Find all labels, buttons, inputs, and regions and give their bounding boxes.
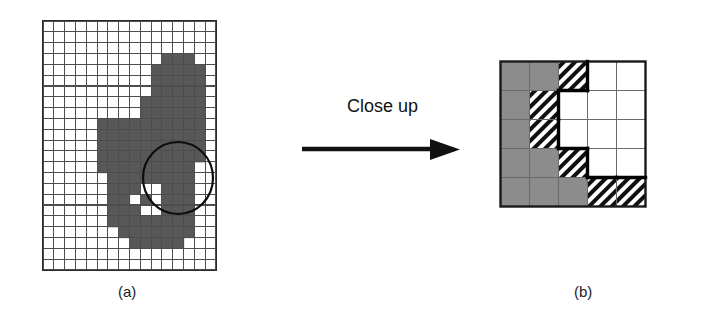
object-pixel	[173, 75, 184, 86]
object-pixel	[130, 140, 141, 151]
object-pixel	[184, 183, 195, 194]
object-pixel	[173, 162, 184, 173]
cell-object	[559, 178, 588, 207]
object-pixel	[108, 162, 119, 173]
object-pixel	[151, 129, 162, 140]
object-pixel	[173, 238, 184, 249]
object-pixel	[151, 227, 162, 238]
object-pixel	[130, 227, 141, 238]
cell-object	[530, 178, 559, 207]
object-pixel	[119, 205, 130, 216]
object-pixel	[173, 86, 184, 97]
object-pixel	[184, 227, 195, 238]
object-pixel	[151, 238, 162, 249]
object-pixel	[173, 97, 184, 108]
object-pixel	[194, 86, 205, 97]
cell-boundary	[530, 120, 559, 149]
panel-b-closeup	[497, 58, 649, 210]
object-pixel	[151, 108, 162, 119]
object-pixel	[194, 64, 205, 75]
object-pixel	[162, 151, 173, 162]
object-pixel	[162, 75, 173, 86]
object-pixel	[184, 162, 195, 173]
object-pixel	[194, 118, 205, 129]
object-pixel	[184, 129, 195, 140]
object-pixel	[140, 227, 151, 238]
object-pixel	[119, 227, 130, 238]
object-pixel	[162, 97, 173, 108]
closeup-label: Close up	[300, 96, 465, 117]
object-pixel	[184, 108, 195, 119]
object-pixel	[194, 108, 205, 119]
object-pixel	[140, 108, 151, 119]
object-pixel	[162, 108, 173, 119]
object-pixel	[108, 118, 119, 129]
object-pixel	[108, 151, 119, 162]
object-pixel	[151, 86, 162, 97]
cell-object	[501, 62, 530, 91]
object-pixel	[173, 216, 184, 227]
object-pixel	[119, 216, 130, 227]
object-pixel	[108, 129, 119, 140]
object-pixel	[119, 194, 130, 205]
object-pixel	[184, 75, 195, 86]
object-pixel	[173, 53, 184, 64]
object-pixel	[97, 140, 108, 151]
object-pixel	[151, 162, 162, 173]
object-pixel	[184, 86, 195, 97]
cell-background	[617, 62, 646, 91]
cell-background	[617, 149, 646, 178]
cell-boundary	[617, 178, 646, 207]
object-pixel	[140, 238, 151, 249]
object-pixel	[108, 205, 119, 216]
object-pixel	[162, 194, 173, 205]
caption-b: (b)	[574, 283, 592, 300]
cell-background	[588, 120, 617, 149]
object-pixel	[173, 227, 184, 238]
object-pixel	[184, 194, 195, 205]
object-pixel	[162, 227, 173, 238]
cell-background	[588, 91, 617, 120]
cell-background	[617, 120, 646, 149]
original-pixel-grid	[42, 20, 217, 271]
cell-object	[501, 91, 530, 120]
object-pixel	[140, 129, 151, 140]
object-pixel	[184, 173, 195, 184]
object-pixel	[119, 151, 130, 162]
object-pixel	[119, 118, 130, 129]
object-pixel	[194, 129, 205, 140]
object-pixel	[184, 97, 195, 108]
object-pixel	[162, 129, 173, 140]
cell-boundary	[559, 62, 588, 91]
object-pixel	[130, 118, 141, 129]
object-pixel	[162, 118, 173, 129]
object-pixel	[194, 75, 205, 86]
object-pixel	[130, 238, 141, 249]
object-pixel	[130, 183, 141, 194]
object-pixel	[173, 183, 184, 194]
object-pixel	[97, 118, 108, 129]
cell-boundary	[588, 178, 617, 207]
panel-a-original-image	[42, 20, 217, 271]
cell-boundary	[530, 91, 559, 120]
object-pixel	[119, 162, 130, 173]
object-pixel	[151, 64, 162, 75]
closeup-transition: Close up	[300, 96, 465, 168]
object-pixel	[162, 183, 173, 194]
object-pixel	[151, 216, 162, 227]
object-pixel	[140, 118, 151, 129]
object-pixel	[173, 129, 184, 140]
closeup-pixel-grid	[497, 58, 649, 210]
object-pixel	[130, 216, 141, 227]
object-pixel	[108, 216, 119, 227]
object-pixel	[130, 129, 141, 140]
object-pixel	[173, 118, 184, 129]
cell-boundary	[559, 149, 588, 178]
cell-background	[617, 91, 646, 120]
object-pixel	[108, 194, 119, 205]
object-pixel	[140, 216, 151, 227]
object-pixel	[119, 183, 130, 194]
cell-object	[530, 62, 559, 91]
object-pixel	[184, 53, 195, 64]
object-pixel	[151, 118, 162, 129]
